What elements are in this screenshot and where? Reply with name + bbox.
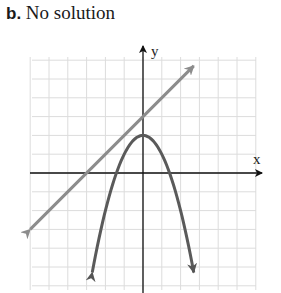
y-axis-label: y (151, 43, 159, 59)
graph: x y (0, 0, 281, 293)
x-axis-label: x (253, 151, 261, 167)
line-series (30, 66, 194, 230)
